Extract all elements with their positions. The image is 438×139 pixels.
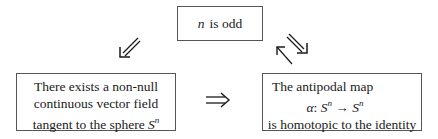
domain-exponent: n <box>327 98 332 108</box>
right-box-line-3: is homotopic to the identity <box>263 116 421 133</box>
left-box-line-3: tangent to the sphere Sn <box>17 112 175 133</box>
is-odd-text: is odd <box>210 16 243 31</box>
right-box-line-1: The antipodal map <box>263 78 421 95</box>
sphere-symbol: S <box>148 117 155 132</box>
top-box-text: nis odd <box>198 15 242 32</box>
top-box: nis odd <box>177 6 263 41</box>
left-box: There exists a non-null continuous vecto… <box>16 73 176 131</box>
double-arrow-right-icon <box>205 92 231 108</box>
right-box: The antipodal map α: Sn → Sn is homotopi… <box>262 73 422 131</box>
codomain-exponent: n <box>359 98 364 108</box>
sphere-exponent: n <box>155 115 160 125</box>
double-arrow-down-left-icon <box>117 36 141 60</box>
left-box-line-2: continuous vector field <box>17 95 175 112</box>
left-box-line-1: There exists a non-null <box>17 78 175 95</box>
left-box-line-3-text: tangent to the sphere <box>33 117 145 132</box>
antipodal-map-formula: α: Sn → Sn <box>263 95 421 116</box>
alpha-symbol: α <box>307 100 314 115</box>
n-variable: n <box>198 16 205 31</box>
codomain-sphere: S <box>352 100 359 115</box>
colon: : <box>314 100 318 115</box>
arrow-up-left-icon <box>274 44 296 68</box>
maps-to-arrow: → <box>335 100 349 115</box>
